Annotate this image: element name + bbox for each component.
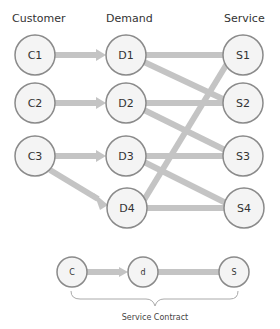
service-contract-legend: C d S Service Contract [57,257,249,322]
header-service: Service [224,12,265,25]
node-label: D2 [118,97,133,110]
node-label: S [231,268,236,277]
arrow-icon [96,97,106,109]
node-label: S3 [236,150,250,163]
node-label: C1 [28,49,43,62]
node-label: C2 [28,97,43,110]
edge-d1-s2 [144,62,225,100]
node-label: d [140,268,145,277]
arrow-icon [96,49,106,61]
node-label: C3 [28,150,43,163]
arrow-icon [119,267,128,277]
arrow-icon [96,150,106,162]
header-demand: Demand [106,12,153,25]
demand-service-edges [144,55,228,208]
node-label: D3 [118,150,133,163]
legend-caption: Service Contract [122,313,189,322]
node-label: D1 [118,49,133,62]
edge-c3-d4 [50,170,98,199]
arrow-icon [94,193,108,210]
node-label: C [69,268,75,277]
header-customer: Customer [12,12,66,25]
customer-nodes: C1 C2 C3 [15,35,55,176]
service-nodes: S1 S2 S3 S4 [223,35,264,228]
curly-brace [71,291,238,306]
service-contract-diagram: Customer Demand Service C1 C2 C3 D1 [0,0,280,329]
node-label: D4 [119,202,134,215]
node-label: S2 [236,97,250,110]
node-label: S1 [236,49,250,62]
node-label: S4 [237,202,251,215]
demand-nodes: D1 D2 D3 D4 [106,35,147,228]
customer-demand-edges [50,49,108,210]
